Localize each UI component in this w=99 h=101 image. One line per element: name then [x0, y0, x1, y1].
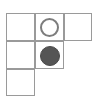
grid-cell-r0c0[interactable] [6, 13, 35, 41]
grid-board [0, 0, 99, 101]
hollow-circle-piece[interactable] [40, 18, 59, 37]
grid-cell-r0c2[interactable] [64, 13, 92, 41]
filled-circle-piece[interactable] [40, 46, 60, 66]
grid-cell-r2c0[interactable] [6, 69, 35, 96]
grid-cell-r1c0[interactable] [6, 41, 35, 69]
